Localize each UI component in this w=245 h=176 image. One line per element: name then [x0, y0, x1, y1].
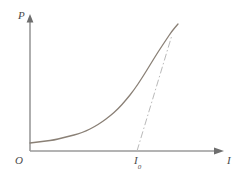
tangent-intercept-label: I0 — [134, 155, 141, 169]
y-axis-label: P — [18, 10, 25, 21]
origin-label: O — [15, 155, 23, 166]
x-axis-label: I — [227, 155, 231, 166]
y-axis-arrow-icon — [27, 14, 34, 23]
pi-curve-plot — [0, 0, 245, 176]
pi-curve-path — [30, 24, 178, 143]
x-axis-arrow-icon — [214, 147, 224, 154]
tangent-asymptote-line — [137, 35, 172, 151]
figure-container: P O I0 I — [0, 0, 245, 176]
tangent-intercept-subscript: 0 — [138, 163, 142, 171]
